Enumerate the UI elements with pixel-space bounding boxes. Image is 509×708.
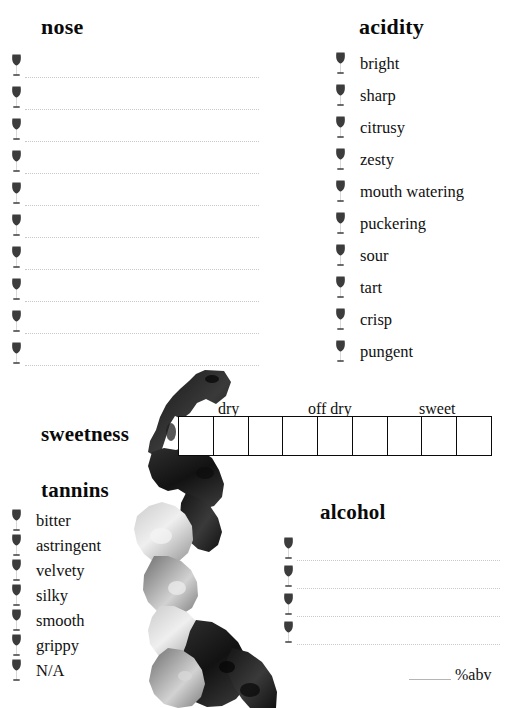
sweetness-heading: sweetness bbox=[41, 422, 129, 447]
alcohol-write-line[interactable] bbox=[297, 644, 500, 645]
acidity-option-crisp[interactable]: crisp bbox=[332, 304, 464, 336]
alcohol-write-line[interactable] bbox=[297, 560, 500, 561]
wine-glass-icon[interactable] bbox=[332, 83, 349, 110]
wine-glass-icon[interactable] bbox=[8, 608, 25, 635]
nose-line-row[interactable] bbox=[8, 336, 259, 368]
tannins-option-astringent[interactable]: astringent bbox=[8, 534, 101, 559]
nose-line-row[interactable] bbox=[8, 112, 259, 144]
acidity-option-mouth-watering[interactable]: mouth watering bbox=[332, 176, 464, 208]
nose-write-line[interactable] bbox=[25, 237, 259, 238]
tannins-option-label: bitter bbox=[25, 513, 71, 530]
nose-line-row[interactable] bbox=[8, 176, 259, 208]
sweetness-cell[interactable] bbox=[214, 417, 249, 455]
nose-write-line[interactable] bbox=[25, 109, 259, 110]
acidity-option-bright[interactable]: bright bbox=[332, 48, 464, 80]
nose-write-line[interactable] bbox=[25, 141, 259, 142]
abv-input[interactable] bbox=[409, 666, 451, 680]
alcohol-write-line[interactable] bbox=[297, 616, 500, 617]
sweetness-cell[interactable] bbox=[353, 417, 388, 455]
wine-glass-icon[interactable] bbox=[332, 115, 349, 142]
tannins-option-grippy[interactable]: grippy bbox=[8, 634, 101, 659]
wine-glass-icon[interactable] bbox=[8, 341, 25, 368]
wine-glass-icon[interactable] bbox=[332, 307, 349, 334]
nose-heading: nose bbox=[41, 14, 83, 40]
nose-line-row[interactable] bbox=[8, 144, 259, 176]
wine-glass-icon[interactable] bbox=[280, 620, 297, 647]
nose-write-line[interactable] bbox=[25, 269, 259, 270]
acidity-option-label: sour bbox=[349, 248, 388, 265]
sweetness-scale bbox=[178, 416, 492, 456]
wine-glass-icon[interactable] bbox=[8, 181, 25, 208]
nose-write-line[interactable] bbox=[25, 173, 259, 174]
wine-glass-icon[interactable] bbox=[332, 275, 349, 302]
acidity-option-tart[interactable]: tart bbox=[332, 272, 464, 304]
tannins-option-silky[interactable]: silky bbox=[8, 584, 101, 609]
wine-glass-icon[interactable] bbox=[8, 309, 25, 336]
wine-glass-icon[interactable] bbox=[8, 149, 25, 176]
wine-glass-icon[interactable] bbox=[8, 558, 25, 585]
tannins-option-na[interactable]: N/A bbox=[8, 659, 101, 684]
wine-glass-icon[interactable] bbox=[8, 633, 25, 660]
acidity-option-label: crisp bbox=[349, 312, 392, 329]
acidity-option-sour[interactable]: sour bbox=[332, 240, 464, 272]
alcohol-line-row[interactable] bbox=[280, 591, 500, 619]
wine-glass-icon[interactable] bbox=[8, 213, 25, 240]
wine-glass-icon[interactable] bbox=[8, 117, 25, 144]
wine-glass-icon[interactable] bbox=[8, 583, 25, 610]
nose-line-row[interactable] bbox=[8, 80, 259, 112]
wine-glass-icon[interactable] bbox=[8, 245, 25, 272]
abv-field: %abv bbox=[409, 666, 491, 684]
sweetness-cell[interactable] bbox=[388, 417, 423, 455]
nose-line-row[interactable] bbox=[8, 208, 259, 240]
nose-line-row[interactable] bbox=[8, 240, 259, 272]
acidity-option-label: pungent bbox=[349, 344, 413, 361]
sweetness-cell[interactable] bbox=[283, 417, 318, 455]
nose-line-row[interactable] bbox=[8, 272, 259, 304]
nose-write-line[interactable] bbox=[25, 77, 259, 78]
wine-glass-icon[interactable] bbox=[8, 508, 25, 535]
wine-glass-icon[interactable] bbox=[332, 179, 349, 206]
tannins-option-label: N/A bbox=[25, 663, 64, 680]
acidity-option-puckering[interactable]: puckering bbox=[332, 208, 464, 240]
tannins-option-list: bitter astringent velvety silky smooth bbox=[8, 509, 101, 684]
tannins-heading: tannins bbox=[41, 478, 109, 503]
acidity-option-pungent[interactable]: pungent bbox=[332, 336, 464, 368]
wine-glass-icon[interactable] bbox=[280, 592, 297, 619]
wine-glass-icon[interactable] bbox=[332, 243, 349, 270]
wine-glass-icon[interactable] bbox=[8, 53, 25, 80]
wine-glass-icon[interactable] bbox=[8, 533, 25, 560]
nose-write-line[interactable] bbox=[25, 333, 259, 334]
wine-glass-icon[interactable] bbox=[280, 564, 297, 591]
acidity-option-label: sharp bbox=[349, 88, 396, 105]
acidity-option-sharp[interactable]: sharp bbox=[332, 80, 464, 112]
acidity-option-list: bright sharp citrusy zesty mouth waterin… bbox=[332, 48, 464, 368]
tannins-option-velvety[interactable]: velvety bbox=[8, 559, 101, 584]
alcohol-write-line[interactable] bbox=[297, 588, 500, 589]
tannins-option-smooth[interactable]: smooth bbox=[8, 609, 101, 634]
sweetness-cell[interactable] bbox=[318, 417, 353, 455]
nose-line-row[interactable] bbox=[8, 48, 259, 80]
wine-glass-icon[interactable] bbox=[8, 85, 25, 112]
wine-glass-icon[interactable] bbox=[8, 658, 25, 685]
alcohol-line-row[interactable] bbox=[280, 535, 500, 563]
nose-write-line[interactable] bbox=[25, 205, 259, 206]
wine-glass-icon[interactable] bbox=[332, 51, 349, 78]
acidity-option-citrusy[interactable]: citrusy bbox=[332, 112, 464, 144]
nose-line-row[interactable] bbox=[8, 304, 259, 336]
tannins-option-bitter[interactable]: bitter bbox=[8, 509, 101, 534]
alcohol-line-row[interactable] bbox=[280, 619, 500, 647]
nose-write-line[interactable] bbox=[25, 365, 259, 366]
sweetness-cell[interactable] bbox=[179, 417, 214, 455]
wine-glass-icon[interactable] bbox=[332, 211, 349, 238]
wine-glass-icon[interactable] bbox=[8, 277, 25, 304]
sweetness-cell[interactable] bbox=[422, 417, 457, 455]
sweetness-cell[interactable] bbox=[249, 417, 284, 455]
wine-glass-icon[interactable] bbox=[332, 339, 349, 366]
sweetness-cell[interactable] bbox=[457, 417, 491, 455]
sweetness-tick-sweet: sweet bbox=[419, 401, 455, 417]
wine-glass-icon[interactable] bbox=[280, 536, 297, 563]
nose-write-line[interactable] bbox=[25, 301, 259, 302]
alcohol-line-row[interactable] bbox=[280, 563, 500, 591]
acidity-option-zesty[interactable]: zesty bbox=[332, 144, 464, 176]
wine-glass-icon[interactable] bbox=[332, 147, 349, 174]
